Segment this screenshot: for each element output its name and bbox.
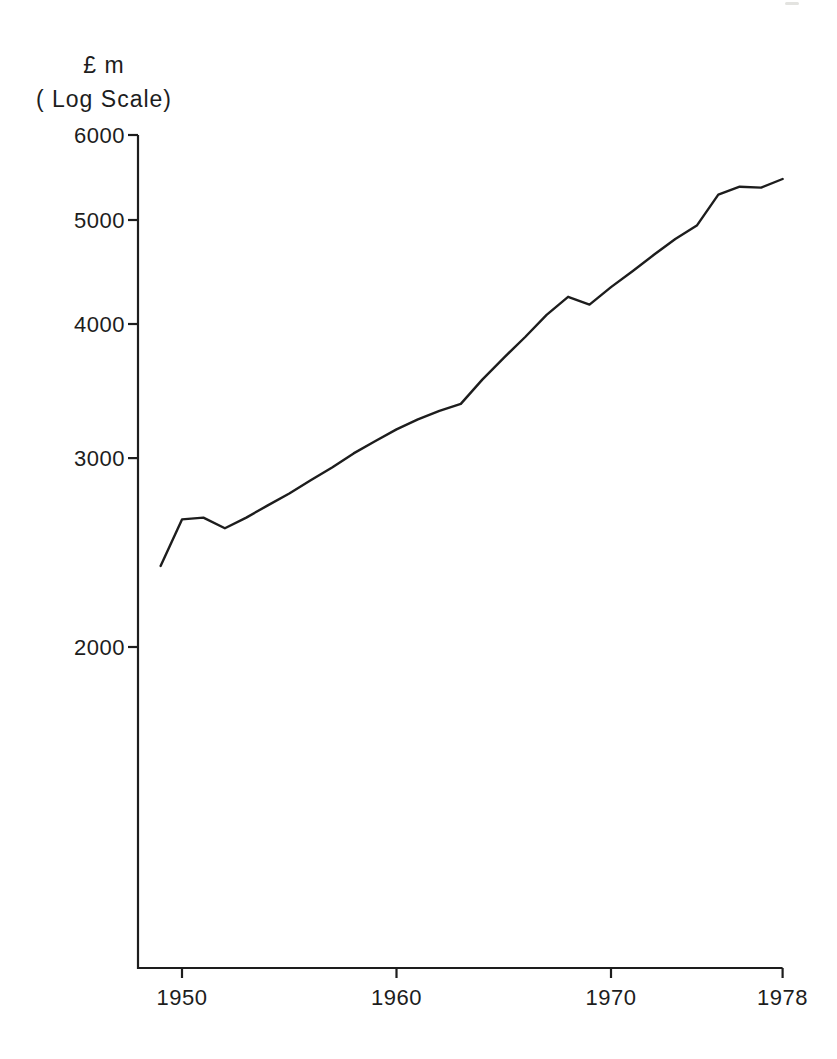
data-series-line [161,179,783,566]
y-axis-tick-label: 2000 [74,635,125,660]
axes-frame [138,135,783,968]
x-axis-tick-label: 1978 [757,985,808,1010]
y-axis-tick-label: 5000 [74,208,125,233]
x-axis-tick-label: 1970 [586,985,637,1010]
x-axis-tick-label: 1950 [157,985,208,1010]
line-chart-canvas: 200030004000500060001950196019701978 [0,0,837,1059]
y-axis-tick-label: 3000 [74,446,125,471]
y-axis-tick-label: 4000 [74,312,125,337]
x-axis-tick-label: 1960 [371,985,422,1010]
chart-page: £ m ( Log Scale) 20003000400050006000195… [0,0,837,1059]
y-axis-tick-label: 6000 [74,123,125,148]
scan-artifact [785,2,799,5]
